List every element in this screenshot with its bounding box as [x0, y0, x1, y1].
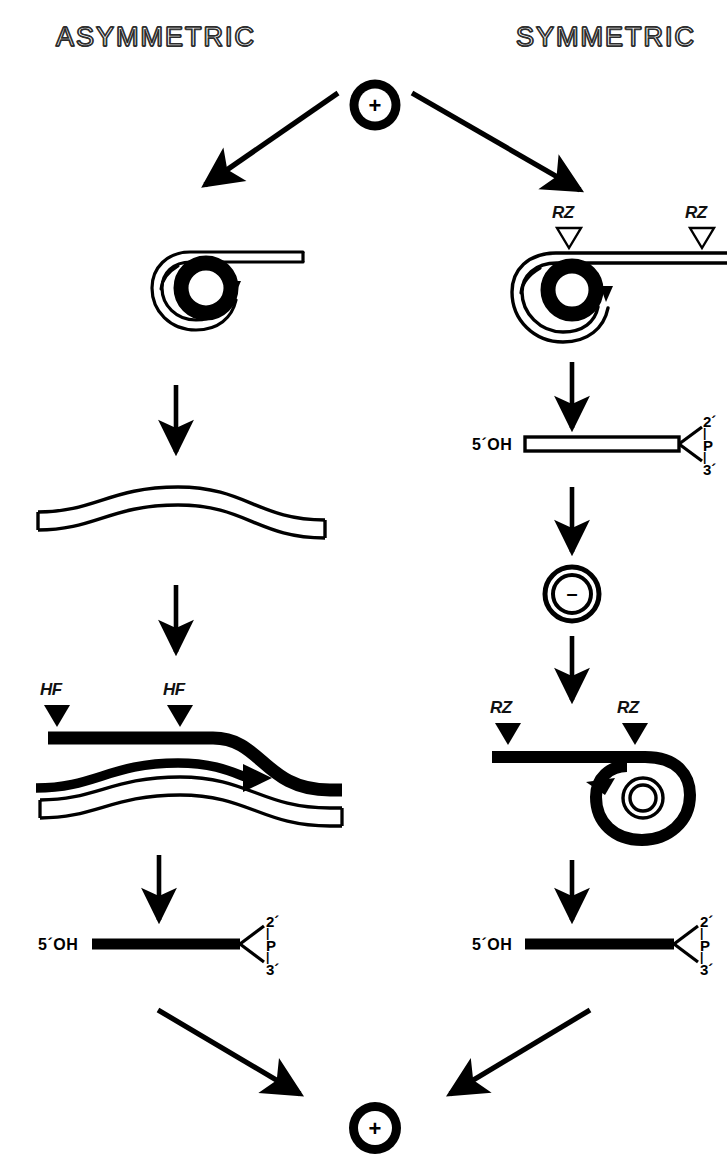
- five-prime-oh-left: 5´OH: [38, 936, 78, 954]
- branch-arrow-right: [412, 93, 580, 190]
- rz-filled-triangle-1: [495, 723, 521, 745]
- figure-canvas: ASYMMETRIC SYMMETRIC + – + RZ RZ RZ RZ H…: [0, 0, 727, 1176]
- converge-arrow-left: [158, 1010, 300, 1094]
- rz-open-triangle-1: [557, 228, 581, 248]
- rz-filled-triangle-2: [622, 723, 648, 745]
- start-plus-sign: +: [363, 93, 387, 119]
- rz-label-2: RZ: [685, 203, 707, 223]
- heading-asymmetric: ASYMMETRIC: [56, 22, 256, 53]
- heading-symmetric: SYMMETRIC: [516, 22, 696, 53]
- rz-label-3: RZ: [490, 698, 512, 718]
- end-plus-sign: +: [363, 1116, 387, 1142]
- left-cleavage-complex: [36, 738, 342, 826]
- converge-arrow-right: [450, 1010, 590, 1094]
- three-prime-label: 3´: [703, 463, 716, 476]
- rz-open-triangle-2: [690, 228, 714, 248]
- branch-arrow-left: [205, 93, 338, 185]
- five-prime-oh-right-2: 5´OH: [472, 936, 512, 954]
- phosphate-stack-right-1: 2´ | P | 3´: [703, 415, 716, 476]
- three-prime-label: 3´: [266, 963, 279, 976]
- five-prime-oh-right-1: 5´OH: [472, 436, 512, 454]
- minus-sign: –: [560, 582, 584, 605]
- hf-label-1: HF: [40, 680, 62, 700]
- rz-label-4: RZ: [617, 698, 639, 718]
- right-monomer-outlined: [525, 427, 702, 461]
- left-linear-strand: [38, 487, 325, 538]
- phosphate-stack-right-2: 2´ | P | 3´: [700, 915, 713, 976]
- hf-label-2: HF: [163, 680, 185, 700]
- right-rolling-circle: [512, 253, 727, 342]
- hf-triangle-2: [167, 705, 193, 727]
- rz-label-1: RZ: [552, 203, 574, 223]
- right-monomer-solid: [525, 926, 698, 962]
- phosphate-stack-left: 2´ | P | 3´: [266, 915, 279, 976]
- three-prime-label: 3´: [700, 963, 713, 976]
- right-rz-markers-1: [557, 228, 714, 248]
- pathway-graphics: [0, 0, 727, 1176]
- hf-triangle-1: [44, 705, 70, 727]
- left-monomer: [92, 926, 264, 962]
- right-rolling-circle-minus: [492, 757, 690, 840]
- left-rolling-circle: [152, 252, 303, 330]
- right-rz-markers-2: [495, 723, 648, 745]
- left-hf-markers: [44, 705, 193, 727]
